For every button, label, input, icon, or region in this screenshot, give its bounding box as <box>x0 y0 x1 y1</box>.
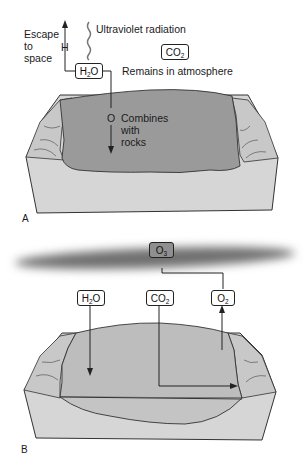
escape-label-line-1: Escape <box>24 28 59 40</box>
co2-box-a: CO2 <box>161 44 189 60</box>
combines-label-line-1: Combines <box>121 112 168 124</box>
panel-a-water <box>60 90 240 173</box>
o2-box-b: O2 <box>211 290 235 306</box>
h2o-base: H <box>80 66 87 77</box>
remains-in-atmosphere-label: Remains in atmosphere <box>122 65 233 77</box>
h2o-b-tail: O <box>93 293 101 304</box>
panel-b-label: B <box>21 444 28 456</box>
o3-sub: 3 <box>164 250 168 257</box>
o2-base: O <box>217 293 225 304</box>
h2o-tail: O <box>91 66 99 77</box>
oxygen-label: O <box>107 112 115 124</box>
hydrogen-label: H <box>61 41 69 53</box>
uv-radiation-label: Ultraviolet radiation <box>96 23 186 35</box>
co2-b-base: CO <box>151 293 166 304</box>
co2-box-b: CO2 <box>146 290 174 306</box>
h2o-box-b: H2O <box>77 290 105 306</box>
o3-box: O3 <box>149 242 174 258</box>
co2-b-sub: 2 <box>166 298 170 305</box>
co2-base: CO <box>166 47 181 58</box>
panel-a-terrain <box>26 90 278 213</box>
o2-sub: 2 <box>225 298 229 305</box>
panel-b-terrain <box>24 323 276 440</box>
combines-label-line-3: rocks <box>121 136 146 148</box>
co2-sub: 2 <box>181 52 185 59</box>
escape-label-line-2: to <box>24 40 33 52</box>
panel-b-water <box>60 323 242 398</box>
h2o-box-a: H2O <box>75 63 103 79</box>
escape-label-line-3: space <box>24 52 52 64</box>
o3-base: O <box>156 245 164 256</box>
h2o-b-base: H <box>82 293 89 304</box>
combines-label-line-2: with <box>121 124 140 136</box>
panel-a-label: A <box>22 213 29 225</box>
